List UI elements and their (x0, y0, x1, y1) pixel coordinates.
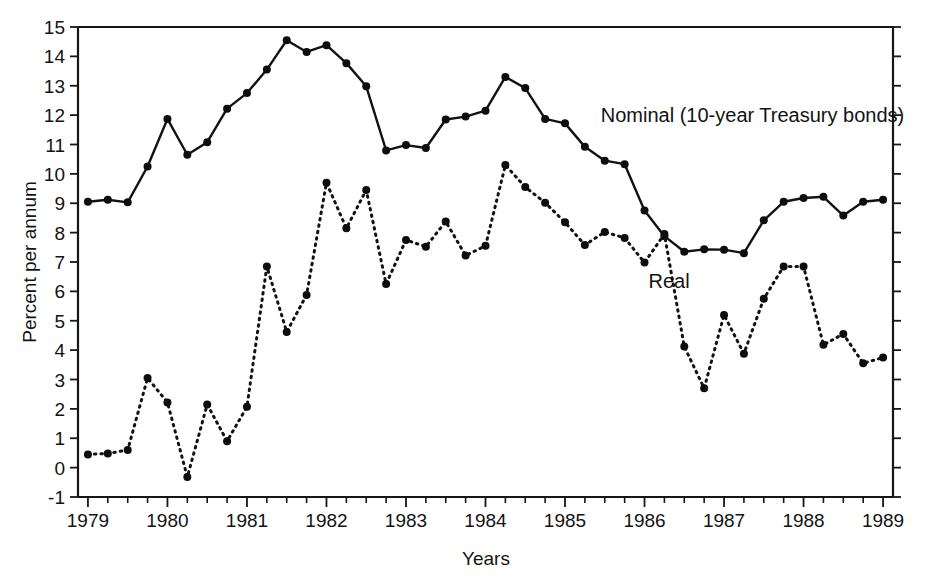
data-point-marker (442, 116, 450, 124)
data-point-marker (203, 138, 211, 146)
data-point-marker (621, 234, 629, 242)
data-point-marker (442, 217, 450, 225)
data-point-marker (601, 228, 609, 236)
data-point-marker (84, 450, 92, 458)
y-tick-label: 7 (54, 252, 65, 273)
data-point-marker (879, 196, 887, 204)
data-point-marker (263, 262, 271, 270)
data-point-marker (800, 194, 808, 202)
series-line (88, 165, 883, 477)
data-point-marker (839, 212, 847, 220)
x-tick-label: 1979 (67, 510, 109, 531)
y-tick-label: 15 (44, 17, 65, 38)
data-point-marker (362, 82, 370, 90)
data-point-marker (322, 41, 330, 49)
data-point-marker (581, 143, 589, 151)
y-tick-label: 10 (44, 164, 65, 185)
data-point-marker (183, 473, 191, 481)
data-point-marker (303, 291, 311, 299)
data-point-marker (879, 353, 887, 361)
x-tick-label: 1989 (862, 510, 904, 531)
y-tick-label: 14 (44, 46, 66, 67)
data-point-marker (382, 146, 390, 154)
data-point-marker (581, 241, 589, 249)
data-point-marker (382, 280, 390, 288)
data-point-marker (144, 374, 152, 382)
data-point-marker (700, 245, 708, 253)
x-tick-label: 1987 (703, 510, 745, 531)
y-tick-label: 13 (44, 76, 65, 97)
x-axis-title: Years (462, 548, 510, 569)
data-point-marker (104, 450, 112, 458)
data-point-marker (482, 107, 490, 115)
data-point-marker (263, 66, 271, 74)
y-tick-label: 0 (54, 458, 65, 479)
data-point-marker (342, 59, 350, 67)
data-point-marker (163, 398, 171, 406)
data-point-marker (303, 48, 311, 56)
data-point-marker (402, 236, 410, 244)
chart-figure: -10123456789101112131415 197919801981198… (0, 0, 938, 578)
data-point-marker (660, 230, 668, 238)
data-point-marker (501, 73, 509, 81)
data-point-marker (720, 246, 728, 254)
y-axis-title: Percent per annum (19, 181, 40, 343)
data-point-marker (183, 151, 191, 159)
data-point-marker (422, 144, 430, 152)
data-point-marker (740, 249, 748, 257)
data-point-marker (482, 242, 490, 250)
x-tick-label: 1984 (464, 510, 507, 531)
data-point-marker (680, 248, 688, 256)
y-tick-label: 6 (54, 281, 65, 302)
y-axis-tick-labels: -10123456789101112131415 (44, 17, 66, 508)
data-point-marker (283, 36, 291, 44)
data-point-marker (163, 115, 171, 123)
data-point-marker (104, 196, 112, 204)
data-point-marker (462, 113, 470, 121)
data-point-marker (641, 207, 649, 215)
data-point-marker (839, 330, 847, 338)
data-point-marker (621, 160, 629, 168)
y-tick-label: 3 (54, 370, 65, 391)
axis-ticks (70, 27, 901, 507)
data-point-marker (859, 359, 867, 367)
data-point-marker (283, 328, 291, 336)
data-point-marker (641, 259, 649, 267)
data-point-marker (819, 193, 827, 201)
data-point-marker (541, 199, 549, 207)
series-nominal (84, 36, 887, 257)
data-point-marker (144, 163, 152, 171)
data-point-marker (243, 89, 251, 97)
data-point-marker (362, 186, 370, 194)
data-point-marker (223, 437, 231, 445)
series-annotation-label: Nominal (10-year Treasury bonds) (601, 104, 904, 126)
y-tick-label: 2 (54, 399, 65, 420)
y-tick-label: 12 (44, 105, 65, 126)
x-tick-label: 1988 (782, 510, 824, 531)
data-point-marker (462, 252, 470, 260)
interest-rate-line-chart: -10123456789101112131415 197919801981198… (0, 0, 938, 578)
data-point-marker (124, 446, 132, 454)
data-point-marker (541, 115, 549, 123)
data-point-marker (243, 403, 251, 411)
x-axis-tick-labels: 1979198019811982198319841985198619871988… (67, 510, 904, 531)
data-point-marker (84, 198, 92, 206)
series-annotation-label: Real (649, 270, 690, 292)
x-tick-label: 1981 (226, 510, 268, 531)
x-tick-label: 1983 (385, 510, 427, 531)
data-point-marker (819, 341, 827, 349)
data-series-group (84, 36, 887, 481)
data-point-marker (342, 224, 350, 232)
y-tick-label: 8 (54, 223, 65, 244)
data-point-marker (760, 216, 768, 224)
data-point-marker (700, 384, 708, 392)
x-tick-label: 1986 (623, 510, 665, 531)
data-point-marker (322, 179, 330, 187)
data-point-marker (561, 218, 569, 226)
x-tick-label: 1982 (305, 510, 347, 531)
data-point-marker (521, 183, 529, 191)
data-point-marker (124, 198, 132, 206)
y-tick-label: -1 (48, 487, 65, 508)
data-point-marker (223, 105, 231, 113)
y-tick-label: 4 (54, 340, 65, 361)
